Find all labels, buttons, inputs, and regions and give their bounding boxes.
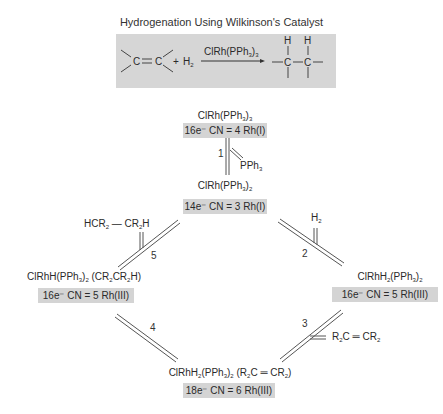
step-5-label: 5 [151, 250, 157, 261]
step-5-side-species: HCR2 — CR2H [84, 218, 150, 229]
product-h-2: H [304, 35, 311, 46]
species-2-electron-count: 16e⁻ CN = 5 Rh(III) [332, 287, 438, 302]
alkene-carbon-1: C [133, 56, 140, 67]
species-0-electron-count: 16e⁻ CN = 4 Rh(I) [183, 123, 267, 138]
catalyst-label: ClRh(PPh3)3 [204, 46, 259, 58]
plus-sign: + [173, 56, 179, 67]
alkane-product [272, 46, 323, 78]
step-3-label: 3 [302, 318, 308, 329]
alkene-carbon-2: C [155, 56, 162, 67]
step-4-label: 4 [150, 322, 156, 333]
step-1-side-species: PPh3 [240, 160, 262, 171]
product-c-1: C [284, 57, 291, 68]
step-1-label: 1 [218, 148, 224, 159]
step-2-side-species: H2 [311, 212, 322, 223]
species-0-formula: ClRh(PPh3)3 [170, 110, 280, 121]
species-2-formula: ClRhH2(PPh3)2 [340, 271, 440, 282]
species-3-electron-count: 18e⁻ CN = 6 Rh(III) [183, 383, 275, 398]
species-1-electron-count: 14e⁻ CN = 3 Rh(I) [183, 199, 267, 214]
species-4-formula: ClRhH(PPh3)2 (CR2CR2H) [24, 271, 144, 282]
step-2-label: 2 [302, 248, 308, 259]
h2-reactant: H2 [183, 56, 194, 68]
species-3-formula: ClRhH2(PPh3)2 (R2C ═ CR2) [150, 367, 310, 378]
species-4-electron-count: 16e⁻ CN = 5 Rh(III) [38, 288, 134, 303]
step-3-side-species: R2C ═ CR2 [332, 331, 380, 342]
step-4-arrow [115, 314, 178, 362]
step-2-arrow [278, 219, 344, 266]
species-1-formula: ClRh(PPh3)2 [170, 180, 280, 191]
product-c-2: C [304, 57, 311, 68]
product-h-1: H [284, 35, 291, 46]
alkene-structure [121, 50, 173, 72]
